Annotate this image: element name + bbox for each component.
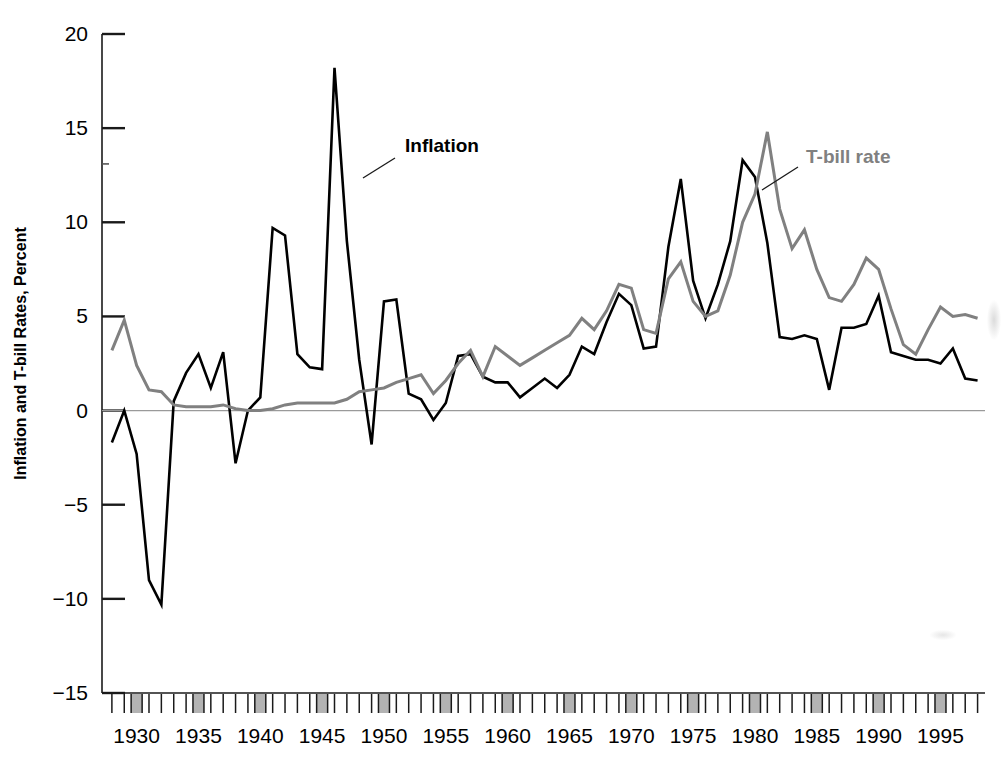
x-tick-highlight-block	[626, 694, 637, 713]
tbill-label: T-bill rate	[806, 146, 890, 167]
x-tick-label: 1935	[175, 724, 222, 747]
x-tick-highlight-block	[873, 694, 884, 713]
x-tick-label-group: 1930193519401945195019551960196519701975…	[113, 724, 964, 747]
x-tick-highlight-block	[131, 694, 142, 713]
x-tick-label: 1945	[299, 724, 346, 747]
y-tick-label: −10	[52, 587, 88, 610]
y-axis-title: Inflation and T-bill Rates, Percent	[12, 227, 29, 480]
x-tick-highlight-block	[255, 694, 266, 713]
series-line-t-bill-rate	[112, 132, 978, 411]
y-tick-label: −5	[64, 493, 88, 516]
x-tick-label: 1980	[732, 724, 779, 747]
y-tick-label: 0	[76, 399, 88, 422]
chart-figure: 20151050−5−10−15193019351940194519501955…	[0, 0, 1007, 761]
x-tick-highlight-block	[378, 694, 389, 713]
x-tick-group	[112, 694, 978, 713]
x-tick-label: 1950	[361, 724, 408, 747]
x-tick-highlight-block	[440, 694, 451, 713]
y-tick-label: 15	[65, 116, 88, 139]
x-tick-highlight-block	[749, 694, 760, 713]
x-tick-label: 1970	[608, 724, 655, 747]
x-tick-highlight-block	[811, 694, 822, 713]
x-tick-highlight-block	[317, 694, 328, 713]
x-tick-highlight-block	[193, 694, 204, 713]
inflation-tbill-line-chart: 20151050−5−10−15193019351940194519501955…	[0, 0, 1007, 761]
x-tick-highlight-block	[502, 694, 513, 713]
x-tick-highlight-block	[688, 694, 699, 713]
y-tick-label: 20	[65, 22, 88, 45]
tbill-label-leader-line	[762, 167, 798, 190]
x-tick-label: 1960	[484, 724, 531, 747]
x-tick-highlight-block	[935, 694, 946, 713]
x-tick-label: 1955	[422, 724, 469, 747]
x-tick-label: 1985	[793, 724, 840, 747]
inflation-label-leader-line	[363, 158, 395, 178]
x-tick-label: 1930	[113, 724, 160, 747]
y-tick-label: 5	[76, 304, 88, 327]
y-tick-label: 10	[65, 210, 88, 233]
inflation-label: Inflation	[405, 135, 479, 156]
x-tick-label: 1965	[546, 724, 593, 747]
x-tick-label: 1990	[855, 724, 902, 747]
y-tick-label: −15	[52, 681, 88, 704]
x-tick-label: 1975	[670, 724, 717, 747]
x-tick-label: 1995	[917, 724, 964, 747]
x-tick-label: 1940	[237, 724, 284, 747]
x-tick-highlight-block	[564, 694, 575, 713]
y-tick-group: 20151050−5−10−15	[52, 22, 125, 704]
